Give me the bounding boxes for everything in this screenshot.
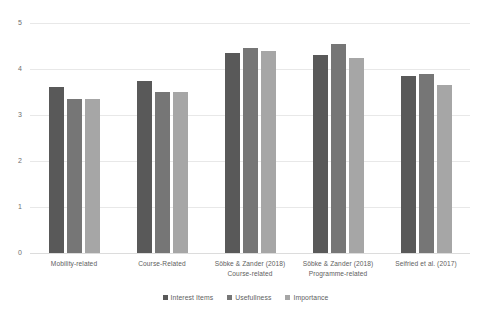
category-label-line1: Söbke & Zander (2018) xyxy=(215,260,286,267)
bar xyxy=(437,85,452,253)
bar xyxy=(243,48,258,253)
bar xyxy=(401,76,416,253)
legend-item-label: Usefullness xyxy=(235,294,271,301)
bar xyxy=(137,81,152,254)
y-axis-tick-1: 1 xyxy=(0,203,22,210)
bar-group xyxy=(137,23,188,253)
legend-item[interactable]: Usefullness xyxy=(227,294,271,301)
y-axis-tick-2: 2 xyxy=(0,157,22,164)
legend-item-label: Interest Items xyxy=(171,294,214,301)
gridline-0-baseline xyxy=(30,253,470,254)
legend-item[interactable]: Importance xyxy=(285,294,328,301)
bar-group xyxy=(49,23,100,253)
category-label-line1: Seifried et al. (2017) xyxy=(395,260,457,267)
legend-swatch-icon xyxy=(227,295,232,300)
y-axis-tick-4: 4 xyxy=(0,65,22,72)
y-axis-tick-0: 0 xyxy=(0,249,22,256)
bar-group xyxy=(401,23,452,253)
category-label: Mobility-related xyxy=(30,259,118,269)
category-label: Söbke & Zander (2018)Programme-related xyxy=(294,259,382,279)
bar xyxy=(173,92,188,253)
bar xyxy=(85,99,100,253)
bar xyxy=(49,87,64,253)
category-label-line2: Programme-related xyxy=(294,269,382,279)
legend-item-label: Importance xyxy=(293,294,328,301)
category-label: Course-Related xyxy=(118,259,206,269)
plot-area xyxy=(30,23,470,253)
category-label-line2: Course-related xyxy=(206,269,294,279)
bar xyxy=(155,92,170,253)
bar xyxy=(261,51,276,253)
category-label-line1: Söbke & Zander (2018) xyxy=(303,260,374,267)
y-axis-tick-5: 5 xyxy=(0,19,22,26)
legend-swatch-icon xyxy=(163,295,168,300)
bar-group xyxy=(313,23,364,253)
legend-swatch-icon xyxy=(285,295,290,300)
bar xyxy=(313,55,328,253)
category-label-line1: Course-Related xyxy=(138,260,186,267)
legend-item[interactable]: Interest Items xyxy=(163,294,214,301)
category-label: Söbke & Zander (2018)Course-related xyxy=(206,259,294,279)
bar xyxy=(225,53,240,253)
category-label-line1: Mobility-related xyxy=(51,260,97,267)
bar xyxy=(349,58,364,254)
y-axis-tick-3: 3 xyxy=(0,111,22,118)
bar-chart: 5 4 3 2 1 0 Mobility-relatedCourse-Relat… xyxy=(0,0,491,318)
category-label: Seifried et al. (2017) xyxy=(382,259,470,269)
bar-group xyxy=(225,23,276,253)
bar xyxy=(67,99,82,253)
bar xyxy=(419,74,434,253)
chart-legend: Interest ItemsUsefullnessImportance xyxy=(0,294,491,301)
bar xyxy=(331,44,346,253)
